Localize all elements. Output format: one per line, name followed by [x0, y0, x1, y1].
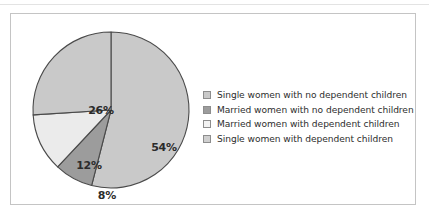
legend-item-label: Married women with no dependent children: [217, 105, 414, 115]
pie-slice: [33, 32, 111, 115]
pie-slice-label: 12%: [76, 159, 102, 172]
legend-item: Married women with no dependent children: [203, 103, 415, 118]
pie-svg: 54%8%12%26%: [31, 30, 191, 190]
legend-item-label: Single women with dependent children: [217, 134, 393, 144]
legend-item-label: Married women with dependent children: [217, 119, 400, 129]
pie-chart: 54%8%12%26%: [31, 30, 191, 190]
legend-item: Single women with dependent children: [203, 132, 415, 147]
chart-legend: Single women with no dependent childrenM…: [203, 88, 415, 146]
legend-item: Single women with no dependent children: [203, 88, 415, 103]
legend-swatch-icon: [203, 91, 211, 99]
legend-swatch-icon: [203, 135, 211, 143]
page-top-rule: [0, 4, 429, 5]
legend-item-label: Single women with no dependent children: [217, 90, 407, 100]
legend-swatch-icon: [203, 120, 211, 128]
chart-frame: 54%8%12%26% Single women with no depende…: [10, 13, 416, 205]
pie-slice-label: 8%: [98, 189, 116, 202]
legend-swatch-icon: [203, 106, 211, 114]
pie-slice-label: 54%: [151, 141, 177, 154]
legend-item: Married women with dependent children: [203, 117, 415, 132]
pie-slice-label: 26%: [88, 104, 114, 117]
